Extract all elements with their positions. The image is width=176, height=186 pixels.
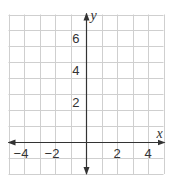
x-tick-label: −4 xyxy=(14,146,29,161)
x-tick-label: 4 xyxy=(144,146,151,161)
y-tick-label: 4 xyxy=(72,63,79,78)
y-axis-label: y xyxy=(89,8,98,23)
x-tick-label: 2 xyxy=(113,146,120,161)
axes xyxy=(9,14,165,175)
coordinate-plane: xy−4−224246 xyxy=(0,0,176,186)
y-tick-label: 2 xyxy=(72,95,79,110)
x-axis-label: x xyxy=(155,126,163,141)
y-tick-label: 6 xyxy=(72,31,79,46)
x-tick-label: −2 xyxy=(45,146,60,161)
